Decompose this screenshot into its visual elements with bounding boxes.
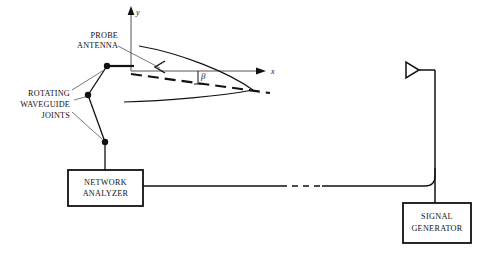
probe-antenna-label-line2: ANTENNA bbox=[77, 41, 118, 50]
callout-labels: PROBE ANTENNA ROTATING WAVEGUIDE JOINTS bbox=[20, 31, 118, 120]
network-analyzer-box[interactable] bbox=[68, 170, 143, 206]
leader-joint-top bbox=[72, 70, 104, 90]
x-axis-arrowhead-icon bbox=[256, 68, 266, 75]
rotating-joints-label-line1: ROTATING bbox=[28, 89, 70, 98]
beta-angle-marker: β bbox=[194, 71, 206, 84]
rotating-joints-label-line2: WAVEGUIDE bbox=[20, 100, 70, 109]
x-axis-label: x bbox=[270, 67, 275, 76]
network-analyzer-instrument[interactable]: NETWORK ANALYZER bbox=[68, 170, 143, 206]
rotating-joint-dot-icon bbox=[85, 92, 91, 98]
rotating-joints-label-line3: JOINTS bbox=[42, 111, 71, 120]
beta-angle-label: β bbox=[200, 71, 206, 81]
network-analyzer-label-line2: ANALYZER bbox=[83, 189, 129, 198]
cable-segment-right bbox=[322, 168, 435, 186]
signal-generator-label-line2: GENERATOR bbox=[411, 224, 462, 233]
transmit-antenna-assembly bbox=[406, 62, 435, 203]
coordinate-axes: y x bbox=[128, 6, 275, 76]
leader-lines bbox=[72, 46, 160, 139]
y-axis-arrowhead-icon bbox=[128, 6, 135, 15]
signal-generator-instrument[interactable]: SIGNAL GENERATOR bbox=[403, 203, 471, 243]
beam-edge-lower bbox=[124, 90, 253, 102]
rotating-joint-dot-icon bbox=[104, 63, 110, 69]
diagram-canvas: y x β bbox=[0, 0, 485, 257]
network-analyzer-label-line1: NETWORK bbox=[84, 178, 127, 187]
linkage-lower-segment bbox=[88, 95, 105, 142]
waveguide-linkage bbox=[85, 63, 110, 170]
leader-joint-bottom bbox=[72, 112, 102, 139]
coaxial-cable bbox=[143, 168, 435, 186]
leader-joint-middle bbox=[74, 97, 85, 100]
signal-generator-box[interactable] bbox=[403, 203, 471, 243]
probe-antenna-label-line1: PROBE bbox=[91, 31, 118, 40]
y-axis-label: y bbox=[135, 8, 140, 17]
signal-generator-label-line1: SIGNAL bbox=[421, 212, 453, 221]
beam-pattern bbox=[124, 46, 253, 102]
horn-antenna-icon bbox=[406, 62, 419, 78]
antenna-measurement-diagram: y x β bbox=[0, 0, 485, 257]
rotating-joint-dot-icon bbox=[102, 139, 108, 145]
